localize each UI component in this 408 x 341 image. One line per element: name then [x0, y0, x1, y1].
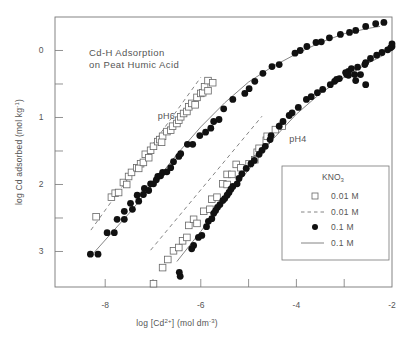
filled-circle-icon [312, 224, 318, 230]
filled-circle-marker [297, 47, 304, 54]
filled-circle-marker [260, 70, 267, 77]
open-square-marker [184, 234, 191, 241]
x-label-pre: log [Cd [136, 318, 164, 328]
open-square-marker [186, 222, 193, 229]
filled-circle-marker [318, 38, 325, 45]
filled-circle-marker [135, 198, 142, 205]
dashed-model-line [151, 116, 262, 250]
open-square-marker [93, 213, 100, 220]
filled-circle-marker [262, 143, 269, 150]
filled-circle-marker [111, 229, 118, 236]
filled-circle-marker [216, 116, 223, 123]
open-square-marker [205, 87, 212, 94]
y-tick-label: 0 [39, 45, 44, 55]
open-square-marker [150, 280, 157, 287]
filled-circle-marker [362, 23, 369, 30]
filled-circle-marker [134, 192, 141, 199]
filled-circle-marker [269, 63, 276, 70]
legend-label-1: 0.01 M [331, 207, 359, 217]
filled-circle-marker [280, 118, 287, 125]
annotation-ph6: pH6 [158, 111, 175, 121]
filled-circle-marker [170, 158, 177, 165]
x-axis-label: log [Cd2+] (mol dm-3) [136, 318, 218, 328]
open-square-marker [194, 220, 201, 227]
filled-circle-marker [326, 34, 333, 41]
filled-circle-marker [268, 132, 275, 139]
open-square-marker [192, 102, 199, 109]
open-square-marker [229, 171, 236, 178]
filled-circle-marker [348, 65, 355, 72]
filled-circle-marker [239, 170, 246, 177]
filled-circle-marker [129, 206, 136, 213]
open-square-marker [115, 189, 122, 196]
filled-circle-marker [333, 76, 340, 83]
filled-circle-marker [337, 31, 344, 38]
filled-circle-marker [372, 20, 379, 27]
filled-circle-marker [87, 251, 94, 258]
filled-circle-marker [289, 109, 296, 116]
filled-circle-marker [346, 29, 353, 36]
x-label-post: ) [215, 318, 218, 328]
filled-circle-marker [177, 150, 184, 157]
filled-circle-marker [229, 96, 236, 103]
annotation-ph4: pH4 [289, 134, 306, 144]
y-label-post: ) [14, 99, 24, 102]
legend-label-3: 0.1 M [331, 238, 354, 248]
filled-circle-marker [276, 61, 283, 68]
open-square-marker [214, 194, 221, 201]
filled-circle-marker [389, 40, 396, 47]
x-tick-label: -2 [388, 300, 396, 310]
filled-circle-marker [308, 93, 315, 100]
open-square-marker [165, 256, 172, 263]
open-square-marker [176, 244, 183, 251]
filled-circle-marker [104, 229, 111, 236]
filled-circle-marker [351, 71, 358, 78]
open-square-marker [158, 139, 165, 146]
chart-title-line-1: Cd-H Adsorption [89, 47, 165, 58]
filled-circle-marker [177, 273, 184, 280]
x-tick-label: -8 [101, 300, 109, 310]
y-axis-label: log Cd adsorbed (mol kg-1) [14, 99, 24, 205]
filled-circle-marker [198, 232, 205, 239]
filled-circle-marker [246, 85, 253, 92]
filled-circle-marker [319, 86, 326, 93]
x-tick-label: -4 [293, 300, 301, 310]
chart-title-line-2: on Peat Humic Acid [89, 59, 179, 70]
filled-circle-marker [145, 187, 152, 194]
filled-circle-marker [95, 251, 102, 258]
filled-circle-marker [190, 242, 197, 249]
legend: KNO3 0.01 M 0.01 M 0.1 M 0.1 M [282, 166, 389, 260]
filled-circle-marker [381, 19, 388, 26]
y-tick-label: 2 [39, 179, 44, 189]
legend-label-0: 0.01 M [331, 191, 359, 201]
open-square-marker [209, 79, 216, 86]
filled-circle-marker [251, 78, 258, 85]
filled-circle-marker [220, 105, 227, 112]
filled-circle-marker [114, 216, 121, 223]
filled-circle-marker [352, 27, 359, 34]
filled-circle-marker [352, 77, 359, 84]
y-tick-label: 3 [39, 246, 44, 256]
filled-circle-marker [121, 216, 128, 223]
filled-circle-marker [304, 43, 311, 50]
filled-circle-marker [167, 164, 174, 171]
filled-circle-marker [342, 69, 349, 76]
filled-circle-marker [362, 81, 369, 88]
filled-circle-marker [121, 208, 128, 215]
filled-circle-marker [196, 132, 203, 139]
x-label-mid: ] (mol dm [172, 318, 209, 328]
open-square-icon [312, 193, 318, 199]
open-square-marker [145, 154, 152, 161]
y-label-pre: log Cd adsorbed (mol kg [14, 108, 24, 205]
open-square-marker [200, 208, 207, 215]
svg-text:log [Cd2+] (mol dm-3): log [Cd2+] (mol dm-3) [136, 318, 218, 328]
filled-circle-marker [251, 157, 258, 164]
filled-circle-marker [295, 104, 302, 111]
filled-circle-marker [354, 64, 361, 71]
filled-circle-marker [357, 71, 364, 78]
open-square-marker [159, 264, 166, 271]
filled-circle-marker [207, 125, 214, 132]
filled-circle-marker [127, 200, 134, 207]
legend-label-2: 0.1 M [331, 222, 354, 232]
x-tick-label: -6 [197, 300, 205, 310]
